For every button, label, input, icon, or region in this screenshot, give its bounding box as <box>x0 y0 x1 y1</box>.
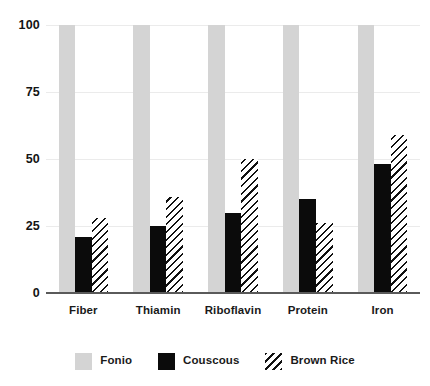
x-axis-label-fiber: Fiber <box>46 305 121 317</box>
y-tick-label-0: 0 <box>6 287 40 300</box>
legend-item-brownrice[interactable]: Brown Rice <box>265 353 354 370</box>
plot-area <box>46 25 420 293</box>
legend-swatch-brownrice-icon <box>265 353 282 370</box>
x-axis-label-iron: Iron <box>345 305 420 317</box>
bar-fonio-iron[interactable] <box>358 25 375 293</box>
x-axis-baseline <box>46 292 420 294</box>
bar-brownrice-iron[interactable] <box>391 135 408 293</box>
bar-couscous-thiamin[interactable] <box>150 226 167 293</box>
bar-brownrice-fiber[interactable] <box>92 218 109 293</box>
bar-couscous-fiber[interactable] <box>75 237 92 293</box>
y-tick-label-50: 50 <box>6 153 40 166</box>
bar-fonio-fiber[interactable] <box>59 25 76 293</box>
legend-item-fonio[interactable]: Fonio <box>75 353 132 370</box>
legend-item-couscous[interactable]: Couscous <box>158 353 239 370</box>
y-tick-label-75: 75 <box>6 86 40 99</box>
bar-group-riboflavin <box>196 25 271 293</box>
bar-fonio-protein[interactable] <box>283 25 300 293</box>
y-axis: 100 75 50 25 0 <box>0 0 40 386</box>
bar-couscous-iron[interactable] <box>374 164 391 293</box>
x-axis-label-riboflavin: Riboflavin <box>196 305 271 317</box>
legend-label-fonio: Fonio <box>100 355 132 367</box>
bar-group-protein <box>270 25 345 293</box>
y-tick-label-100: 100 <box>6 19 40 32</box>
chart-legend: FonioCouscousBrown Rice <box>0 348 430 374</box>
bar-brownrice-protein[interactable] <box>316 223 333 293</box>
bar-group-iron <box>345 25 420 293</box>
bar-brownrice-thiamin[interactable] <box>166 197 183 293</box>
bar-group-fiber <box>46 25 121 293</box>
bar-group-thiamin <box>121 25 196 293</box>
legend-swatch-couscous-icon <box>158 353 175 370</box>
legend-swatch-fonio-icon <box>75 353 92 370</box>
bar-couscous-protein[interactable] <box>299 199 316 293</box>
x-axis-label-thiamin: Thiamin <box>121 305 196 317</box>
legend-label-couscous: Couscous <box>183 355 239 367</box>
bar-fonio-thiamin[interactable] <box>133 25 150 293</box>
bar-couscous-riboflavin[interactable] <box>225 213 242 293</box>
bar-chart: 100 75 50 25 0 FiberThiaminRiboflavinPro… <box>0 0 430 386</box>
bar-brownrice-riboflavin[interactable] <box>241 159 258 293</box>
legend-label-brownrice: Brown Rice <box>290 355 354 367</box>
x-axis-label-protein: Protein <box>270 305 345 317</box>
bar-fonio-riboflavin[interactable] <box>208 25 225 293</box>
y-tick-label-25: 25 <box>6 220 40 233</box>
